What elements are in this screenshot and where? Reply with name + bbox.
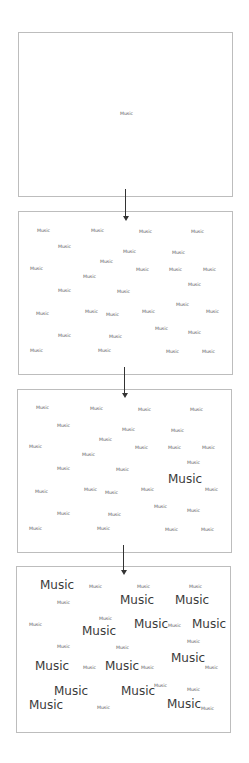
word-small: Music (57, 512, 70, 517)
word-small: Music (135, 446, 148, 451)
word-small: Music (57, 424, 70, 429)
word-small: Music (105, 491, 118, 496)
word-large: Music (29, 699, 63, 711)
word-small: Music (85, 310, 98, 315)
word-small: Music (99, 438, 112, 443)
word-small: Music (123, 250, 136, 255)
word-small: Music (201, 528, 214, 533)
word-small: Music (139, 230, 152, 235)
word-large: Music (120, 594, 154, 606)
word-small: Music (206, 310, 219, 315)
word-small: Music (138, 408, 151, 413)
word-small: Music (89, 585, 102, 590)
word-small: Music (187, 640, 200, 645)
word-small: Music (203, 268, 216, 273)
down-arrow-icon (123, 545, 124, 571)
word-small: Music (141, 666, 154, 671)
word-small: Music (99, 617, 112, 622)
word-small: Music (97, 706, 110, 711)
word-small: Music (187, 509, 200, 514)
word-small: Music (97, 527, 110, 532)
word-small: Music (141, 488, 154, 493)
word-large: Music (40, 579, 74, 591)
word-small: Music (98, 349, 111, 354)
arrowhead-icon (121, 570, 127, 575)
word-small: Music (90, 407, 103, 412)
down-arrow-icon (124, 367, 125, 394)
word-small: Music (205, 488, 218, 493)
word-small: Music (36, 312, 49, 317)
word-small: Music (82, 453, 95, 458)
word-large: Music (121, 685, 155, 697)
word-large: Music (168, 473, 202, 485)
word-large: Music (35, 660, 69, 672)
word-small: Music (83, 275, 96, 280)
arrowhead-icon (123, 216, 129, 221)
arrowhead-icon (122, 393, 128, 398)
word-small: Music (168, 624, 181, 629)
word-small: Music (187, 461, 200, 466)
word-small: Music (202, 350, 215, 355)
word-large: Music (171, 652, 205, 664)
word-large: Music (167, 698, 201, 710)
word-large: Music (54, 685, 88, 697)
word-small: Music (57, 645, 70, 650)
word-small: Music (188, 331, 201, 336)
word-small: Music (35, 490, 48, 495)
word-large: Music (105, 660, 139, 672)
word-small: Music (30, 349, 43, 354)
word-small: Music (189, 585, 202, 590)
word-small: Music (58, 334, 71, 339)
word-small: Music (176, 303, 189, 308)
word-small: Music (190, 408, 203, 413)
word-small: Music (142, 310, 155, 315)
word-small: Music (83, 666, 96, 671)
word-small: Music (30, 267, 43, 272)
word-small: Music (29, 445, 42, 450)
word-small: Music (137, 585, 150, 590)
word-small: Music (166, 350, 179, 355)
word-large: Music (134, 618, 168, 630)
down-arrow-icon (125, 189, 126, 217)
word-small: Music (191, 230, 204, 235)
word-small: Music (169, 268, 182, 273)
word-small: Music (57, 467, 70, 472)
word-small: Music (155, 327, 168, 332)
word-small: Music (36, 406, 49, 411)
word-small: Music (58, 245, 71, 250)
word-small: Music (201, 707, 214, 712)
word-small: Music (188, 283, 201, 288)
word-small: Music (205, 666, 218, 671)
word-small: Music (100, 260, 113, 265)
word-small: Music (91, 229, 104, 234)
word-large: Music (175, 594, 209, 606)
word-small: Music (84, 488, 97, 493)
word-small: Music (172, 251, 185, 256)
word-large: Music (82, 625, 116, 637)
word-small: Music (29, 623, 42, 628)
word-small: Music (116, 468, 129, 473)
word-small: Music (57, 601, 70, 606)
word-small: Music (187, 688, 200, 693)
word-small: Music (122, 428, 135, 433)
word-small: Music (154, 505, 167, 510)
word-small: Music (120, 112, 133, 117)
word-small: Music (154, 684, 167, 689)
word-small: Music (136, 268, 149, 273)
word-small: Music (106, 313, 119, 318)
word-small: Music (168, 446, 181, 451)
word-small: Music (58, 289, 71, 294)
word-small: Music (29, 527, 42, 532)
word-small: Music (171, 429, 184, 434)
word-small: Music (117, 290, 130, 295)
word-small: Music (202, 446, 215, 451)
word-large: Music (192, 618, 226, 630)
word-small: Music (37, 229, 50, 234)
word-small: Music (116, 646, 129, 651)
word-small: Music (108, 513, 121, 518)
word-small: Music (109, 335, 122, 340)
word-small: Music (165, 528, 178, 533)
